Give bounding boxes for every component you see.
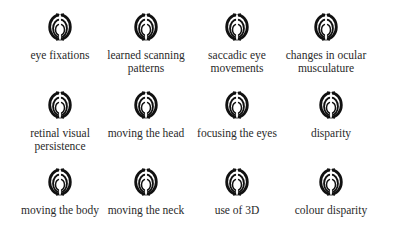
concentric-arc-icon bbox=[48, 90, 72, 120]
concentric-arc-icon bbox=[319, 90, 343, 120]
concentric-arc-icon bbox=[48, 167, 72, 197]
item-colour-disparity: colour disparity bbox=[276, 167, 386, 217]
item-changes-in-ocular-musculature: changes in ocular musculature bbox=[276, 12, 376, 75]
concentric-arc-icon bbox=[134, 12, 158, 42]
concentric-arc-icon bbox=[225, 12, 249, 42]
item-label: colour disparity bbox=[276, 204, 386, 217]
item-label: disparity bbox=[276, 127, 386, 140]
concentric-arc-icon bbox=[134, 90, 158, 120]
concentric-arc-icon bbox=[134, 167, 158, 197]
concentric-arc-icon bbox=[314, 12, 338, 42]
concentric-arc-icon bbox=[48, 12, 72, 42]
concentric-arc-icon bbox=[225, 90, 249, 120]
item-label: changes in ocular musculature bbox=[276, 49, 376, 75]
item-disparity: disparity bbox=[276, 90, 386, 140]
concentric-arc-icon bbox=[319, 167, 343, 197]
concentric-arc-icon bbox=[225, 167, 249, 197]
